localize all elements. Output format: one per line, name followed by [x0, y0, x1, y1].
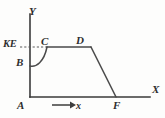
x-axis-label: X [152, 84, 159, 95]
point-label-d: D [76, 35, 84, 46]
point-label-f: F [113, 100, 120, 111]
segment-d-to-f-line [91, 47, 116, 97]
point-label-c: C [41, 36, 48, 47]
direction-variable-label: x [76, 101, 81, 111]
ke-value-label: KE [3, 39, 17, 50]
point-label-a: A [17, 100, 24, 111]
point-label-b: B [16, 57, 23, 68]
figure-container: Y X KE B C D A F x [0, 0, 165, 118]
segment-b-to-c-curve [30, 47, 47, 66]
ke-vs-x-graph [0, 0, 165, 118]
y-axis-label: Y [29, 6, 36, 17]
